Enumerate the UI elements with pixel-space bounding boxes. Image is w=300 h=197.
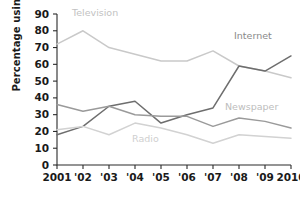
y-tick-label: 90	[34, 8, 49, 20]
y-tick-label: 0	[42, 159, 49, 171]
series-line-internet	[57, 56, 291, 135]
y-tick-label: 80	[34, 24, 49, 36]
y-tick-label: 50	[34, 75, 49, 87]
series-line-radio	[57, 123, 291, 143]
x-tick-label: '05	[152, 171, 170, 183]
x-tick-label: 2001	[42, 171, 71, 183]
x-tick-label: '07	[204, 171, 222, 183]
x-tick-label: '02	[74, 171, 92, 183]
series-label-newspaper: Newspaper	[225, 101, 278, 112]
series-label-television: Television	[71, 7, 118, 18]
x-tick-label: '08	[230, 171, 248, 183]
series-label-internet: Internet	[234, 30, 272, 41]
chart-plot-area: 0102030405060708090 2001'02'03'04'05'06'…	[0, 0, 300, 197]
series-label-radio: Radio	[132, 133, 159, 144]
y-tick-label: 10	[34, 142, 49, 154]
x-tick-label: '09	[256, 171, 274, 183]
x-tick-label: '06	[178, 171, 196, 183]
chart-series	[57, 31, 291, 143]
line-chart: Percentage using 0102030405060708090 200…	[0, 0, 300, 197]
x-tick-label: 2010	[276, 171, 300, 183]
y-tick-label: 60	[34, 58, 49, 70]
x-tick-label: '04	[126, 171, 144, 183]
y-tick-label: 20	[34, 125, 49, 137]
x-tick-label: '03	[100, 171, 118, 183]
y-axis-ticks: 0102030405060708090	[34, 8, 57, 171]
y-tick-label: 30	[34, 108, 49, 120]
y-tick-label: 70	[34, 41, 49, 53]
y-tick-label: 40	[34, 91, 49, 103]
series-labels: TelevisionInternetNewspaperRadio	[71, 7, 278, 144]
x-axis-ticks: 2001'02'03'04'05'06'07'08'092010	[42, 165, 300, 183]
